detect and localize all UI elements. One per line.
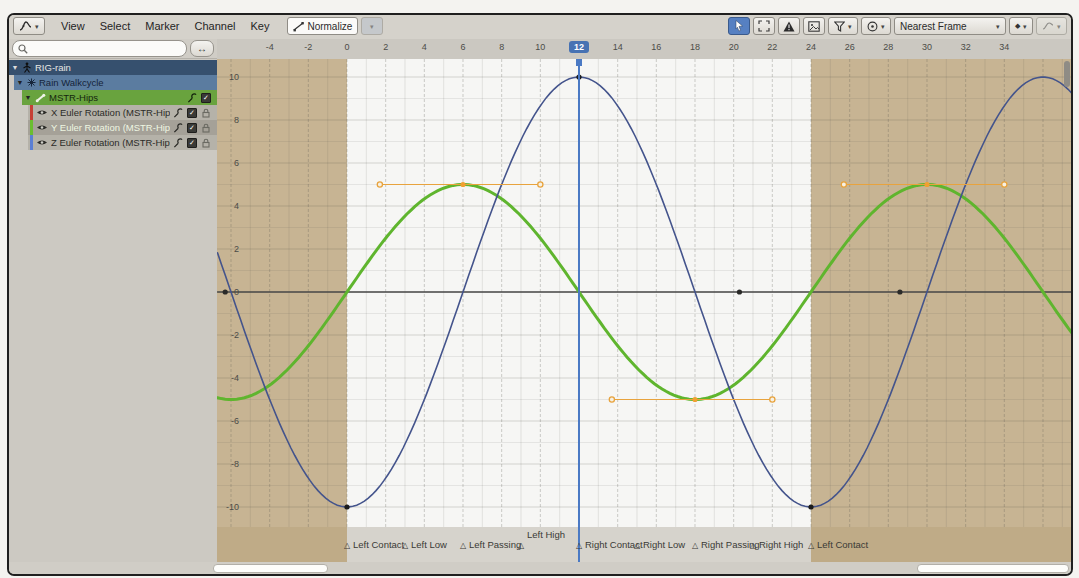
bezier-handle-point[interactable] — [609, 397, 614, 402]
y-axis-label: 0 — [234, 287, 239, 297]
channel-row-group[interactable]: ▼ MSTR-Hips ✓ — [22, 90, 217, 105]
marker-triangle-icon[interactable]: △ — [692, 541, 699, 550]
keyframe-point[interactable] — [737, 289, 742, 294]
menu-select[interactable]: Select — [99, 18, 132, 34]
chevron-down-icon: ▾ — [848, 23, 852, 30]
filter-dropdown[interactable]: ▾ — [828, 17, 858, 35]
ruler-tick: -4 — [257, 42, 283, 52]
keyframe-point[interactable] — [344, 504, 349, 509]
keyframe-point[interactable] — [460, 182, 465, 187]
frame-ruler[interactable]: -4-20246810121416182022242628303234 — [217, 39, 1071, 60]
bezier-handle-point[interactable] — [770, 397, 775, 402]
graph-editor-window: ▾ ViewSelectMarkerChannelKey Normalize ▾ — [7, 13, 1073, 576]
menu-marker[interactable]: Marker — [144, 18, 180, 34]
interpolation-dropdown[interactable]: ▾ — [1036, 17, 1067, 35]
bezier-handle-point[interactable] — [538, 182, 543, 187]
keyframe-point[interactable] — [924, 182, 929, 187]
bezier-handle-point[interactable] — [1002, 182, 1007, 187]
filter-invert-button[interactable]: ↔ — [190, 40, 214, 57]
ghost-curves-button[interactable] — [803, 17, 825, 35]
vertical-scrollbar[interactable] — [1064, 61, 1070, 87]
ruler-tick: 26 — [837, 42, 863, 52]
wrench-icon[interactable] — [173, 138, 183, 148]
marker-triangle-icon[interactable]: △ — [576, 541, 583, 550]
channel-row-x-rotation[interactable]: X Euler Rotation (MSTR-Hips) ✓ — [28, 105, 217, 120]
y-axis-label: -8 — [231, 459, 239, 469]
horizontal-scrollbar-right[interactable] — [917, 564, 1069, 573]
marker-left-contact[interactable]: Left Contact — [353, 539, 405, 550]
marker-left-high[interactable]: Left High — [527, 529, 565, 540]
keyframe-type-dropdown[interactable]: ◆ ▾ — [1009, 17, 1033, 35]
y-axis-label: -4 — [231, 373, 239, 383]
expand-triangle-icon[interactable]: ▼ — [24, 94, 32, 101]
armature-icon — [22, 62, 32, 73]
keyframe-point[interactable] — [897, 289, 902, 294]
current-frame-indicator[interactable]: 12 — [569, 41, 589, 53]
eye-icon[interactable] — [36, 123, 48, 132]
ruler-tick: 22 — [759, 42, 785, 52]
channel-row-action[interactable]: ▼ Rain Walkcycle — [14, 75, 217, 90]
keyframe-point[interactable] — [223, 289, 228, 294]
action-icon — [27, 78, 36, 87]
eye-icon[interactable] — [36, 138, 48, 147]
marker-triangle-icon[interactable]: △ — [402, 541, 409, 550]
expand-triangle-icon[interactable]: ▼ — [16, 79, 24, 86]
channel-label: MSTR-Hips — [49, 92, 184, 103]
marker-triangle-icon[interactable]: △ — [750, 541, 757, 550]
wrench-icon[interactable] — [173, 123, 183, 133]
channel-row-y-rotation[interactable]: Y Euler Rotation (MSTR-Hips) ✓ — [28, 120, 217, 135]
checkbox-icon[interactable]: ✓ — [187, 123, 197, 133]
editor-type-dropdown[interactable]: ▾ — [13, 17, 45, 35]
menu-view[interactable]: View — [60, 18, 86, 34]
expand-corners-icon — [758, 20, 770, 32]
expand-triangle-icon[interactable]: ▼ — [11, 64, 19, 71]
normalize-auto-option[interactable]: ▾ — [361, 17, 383, 35]
keyframe-point[interactable] — [692, 397, 697, 402]
marker-triangle-icon[interactable]: △ — [344, 541, 351, 550]
marker-right-high[interactable]: Right High — [759, 539, 803, 550]
bezier-handle-point[interactable] — [841, 182, 846, 187]
eye-icon[interactable] — [36, 108, 48, 117]
marker-right-low[interactable]: Right Low — [643, 539, 685, 550]
channel-row-object[interactable]: ▼ RIG-rain — [9, 60, 217, 75]
graph-canvas[interactable]: 1086420-2-4-6-8-10△Left Contact△Left Low… — [217, 59, 1071, 562]
checkbox-icon[interactable]: ✓ — [187, 138, 197, 148]
show-errors-button[interactable] — [778, 17, 800, 35]
normalized-view-button[interactable] — [753, 17, 775, 35]
chevron-down-icon: ▾ — [1057, 23, 1061, 30]
lock-icon[interactable] — [201, 123, 211, 133]
keyframe-point[interactable] — [808, 504, 813, 509]
marker-left-contact[interactable]: Left Contact — [817, 539, 869, 550]
checkbox-icon[interactable]: ✓ — [201, 93, 211, 103]
snap-mode-select[interactable]: Nearest Frame ▾ — [894, 17, 1006, 35]
bezier-handle-point[interactable] — [377, 182, 382, 187]
horizontal-scrollbar-left[interactable] — [213, 564, 328, 573]
y-axis-label: 6 — [234, 158, 239, 168]
normalize-toggle[interactable]: Normalize — [287, 17, 358, 35]
bottom-strip — [9, 562, 1071, 574]
search-input[interactable] — [12, 40, 187, 57]
lock-icon[interactable] — [201, 138, 211, 148]
chevron-down-icon: ▾ — [881, 23, 885, 30]
checkbox-icon[interactable]: ✓ — [187, 108, 197, 118]
marker-left-passing[interactable]: Left Passing — [469, 539, 521, 550]
marker-triangle-icon[interactable]: △ — [634, 541, 641, 550]
ruler-tick: 0 — [334, 42, 360, 52]
tweak-tool-button[interactable] — [728, 17, 750, 35]
wrench-icon[interactable] — [173, 108, 183, 118]
proportional-edit-dropdown[interactable]: ▾ — [861, 17, 891, 35]
marker-triangle-icon[interactable]: △ — [518, 541, 525, 550]
menu-key[interactable]: Key — [249, 18, 270, 34]
marker-triangle-icon[interactable]: △ — [808, 541, 815, 550]
menu-channel[interactable]: Channel — [193, 18, 236, 34]
playhead-cap[interactable] — [576, 59, 582, 66]
y-axis-label: 2 — [234, 244, 239, 254]
marker-left-low[interactable]: Left Low — [411, 539, 447, 550]
ruler-tick: -2 — [295, 42, 321, 52]
marker-triangle-icon[interactable]: △ — [460, 541, 467, 550]
image-icon — [808, 21, 820, 32]
wrench-icon[interactable] — [187, 93, 197, 103]
channel-row-z-rotation[interactable]: Z Euler Rotation (MSTR-Hips) ✓ — [28, 135, 217, 150]
chevron-down-icon: ▾ — [1023, 23, 1027, 30]
lock-icon[interactable] — [201, 108, 211, 118]
